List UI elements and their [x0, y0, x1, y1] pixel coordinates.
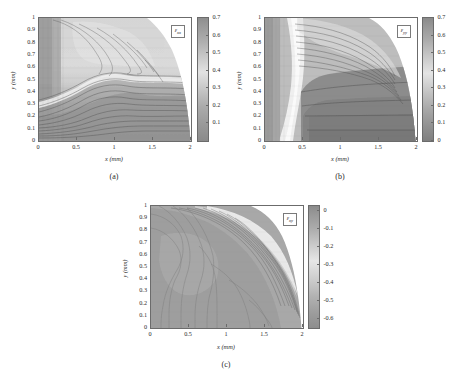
colorbar-tick-label: 0.7	[434, 14, 445, 20]
panel-a: y (mm) 00.10.20.30.40.50.60.70.80.91	[0, 0, 226, 190]
y-tick-label: 0	[134, 324, 147, 330]
panel-b-y-axis-label: y (mm)	[235, 61, 242, 101]
panel-b-series-label-sub: yy	[403, 30, 407, 35]
x-tick-label: 1.5	[260, 331, 268, 337]
x-tick-label: 2	[300, 331, 303, 337]
colorbar-tick-label: 0.4	[434, 67, 445, 73]
panel-a-series-label-sub: xx	[177, 30, 181, 35]
y-tick-label: 0.7	[134, 238, 147, 244]
panel-b-series-label: εyy	[397, 25, 411, 38]
colorbar-tick-mark	[431, 52, 434, 53]
y-tick-label: 0.6	[22, 63, 35, 69]
y-tick-label: 0.8	[248, 38, 261, 44]
colorbar-tick-mark	[317, 210, 320, 211]
colorbar-tick-mark	[206, 105, 209, 106]
panel-b-plot-area: εyy	[264, 17, 418, 142]
y-tick-label: 0.8	[22, 38, 35, 44]
x-tick-label: 1.5	[148, 144, 156, 150]
colorbar-tick-mark	[317, 246, 320, 247]
x-tick-label: 1	[224, 331, 227, 337]
y-tick-label: 0.1	[248, 125, 261, 131]
y-tick-label: 0.7	[248, 51, 261, 57]
colorbar-tick-label: 0.7	[209, 14, 220, 20]
colorbar-tick-mark	[431, 87, 434, 88]
x-tick-label: 0	[36, 144, 39, 150]
colorbar-tick-label: 0.4	[209, 67, 220, 73]
y-tick-label: 0.2	[248, 112, 261, 118]
panel-c-caption: (c)	[222, 360, 231, 369]
panel-b-strain-field	[265, 18, 417, 141]
y-tick-label: 1	[134, 202, 147, 208]
x-tick-mark	[76, 137, 77, 140]
panel-a-series-label: εxx	[171, 25, 185, 38]
y-tick-label: 0.5	[248, 75, 261, 81]
x-tick-label: 0	[262, 144, 265, 150]
colorbar-tick-label: 0.1	[209, 119, 220, 125]
colorbar-tick-mark	[317, 228, 320, 229]
colorbar-tick-label: 0.3	[434, 84, 445, 90]
colorbar-tick-mark	[317, 318, 320, 319]
y-tick-label: 0.3	[248, 100, 261, 106]
y-tick-label: 0.8	[134, 226, 147, 232]
y-tick-label: 0.6	[248, 63, 261, 69]
y-tick-label: 0.1	[22, 125, 35, 131]
y-tick-label: 1	[22, 14, 35, 20]
y-tick-label: 0.3	[22, 100, 35, 106]
colorbar-tick-mark	[431, 122, 434, 123]
panel-b-caption: (b)	[335, 172, 344, 181]
y-tick-label: 0.1	[134, 312, 147, 318]
colorbar-tick-label: 0	[434, 137, 441, 143]
x-tick-mark	[38, 137, 39, 140]
panel-c-colorbar-gradient	[309, 206, 319, 328]
colorbar-tick-mark	[317, 300, 320, 301]
colorbar-tick-label: -0.6	[320, 315, 333, 321]
y-tick-label: 0.6	[134, 251, 147, 257]
x-tick-mark	[264, 324, 265, 327]
x-tick-label: 0.5	[298, 144, 306, 150]
y-tick-label: 0	[248, 137, 261, 143]
panel-c-series-label-sub: xy	[289, 218, 293, 223]
y-tick-label: 0.4	[22, 88, 35, 94]
x-tick-mark	[190, 137, 191, 140]
colorbar-tick-label: 0.5	[209, 49, 220, 55]
x-tick-mark	[264, 137, 265, 140]
y-tick-label: 0.3	[134, 287, 147, 293]
colorbar-tick-mark	[206, 122, 209, 123]
y-tick-label: 0.2	[134, 299, 147, 305]
x-tick-label: 1.5	[374, 144, 382, 150]
colorbar-tick-mark	[431, 35, 434, 36]
colorbar-tick-label: -0.2	[320, 243, 333, 249]
x-tick-label: 0.5	[184, 331, 192, 337]
y-tick-label: 0	[22, 137, 35, 143]
panel-a-caption: (a)	[110, 172, 119, 181]
y-tick-label: 0.7	[22, 51, 35, 57]
colorbar-tick-label: -0.5	[320, 297, 333, 303]
colorbar-tick-label: -0.4	[320, 279, 333, 285]
colorbar-tick-label: 0.2	[209, 102, 220, 108]
panel-c-strain-field	[151, 206, 303, 328]
y-tick-label: 0.9	[248, 26, 261, 32]
colorbar-tick-label: 0.1	[434, 119, 445, 125]
colorbar-tick-mark	[206, 52, 209, 53]
panel-c-colorbar	[308, 205, 320, 329]
x-tick-mark	[226, 324, 227, 327]
x-tick-mark	[150, 324, 151, 327]
colorbar-tick-mark	[431, 70, 434, 71]
colorbar-tick-label: -0.3	[320, 261, 333, 267]
panel-a-x-axis-label: x (mm)	[105, 155, 123, 162]
x-tick-label: 0.5	[72, 144, 80, 150]
colorbar-tick-label: 0.3	[209, 84, 220, 90]
panel-c-x-axis-label: x (mm)	[217, 343, 235, 350]
x-tick-mark	[152, 137, 153, 140]
panel-b-x-axis-label: x (mm)	[331, 155, 349, 162]
colorbar-tick-mark	[206, 87, 209, 88]
panel-a-y-axis-label: y (mm)	[9, 61, 16, 101]
colorbar-tick-label: 0	[320, 207, 327, 213]
colorbar-tick-mark	[206, 70, 209, 71]
panel-c-plot-area: εxy	[150, 205, 304, 329]
colorbar-tick-label: 0.6	[209, 31, 220, 37]
x-tick-label: 2	[188, 144, 191, 150]
panel-a-plot-area: εxx	[38, 17, 192, 142]
colorbar-tick-mark	[431, 140, 434, 141]
x-tick-mark	[302, 324, 303, 327]
